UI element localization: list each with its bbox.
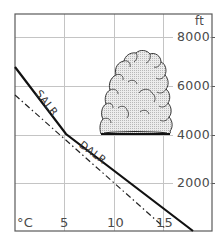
x-axis-unit-label: °C — [17, 216, 33, 229]
y-tick-label-2000: 2000 — [173, 177, 210, 190]
y-tick-label-4000: 4000 — [173, 129, 210, 142]
y-tick-label-6000: 6000 — [173, 80, 210, 93]
y-axis-unit-label: ft — [195, 16, 204, 28]
x-tick-label-15: 15 — [156, 216, 173, 229]
x-tick-label-10: 10 — [107, 216, 124, 229]
x-tick-label-5: 5 — [60, 216, 69, 229]
cumulus-cloud-icon — [100, 50, 172, 134]
y-tick-label-8000: 8000 — [173, 31, 210, 44]
